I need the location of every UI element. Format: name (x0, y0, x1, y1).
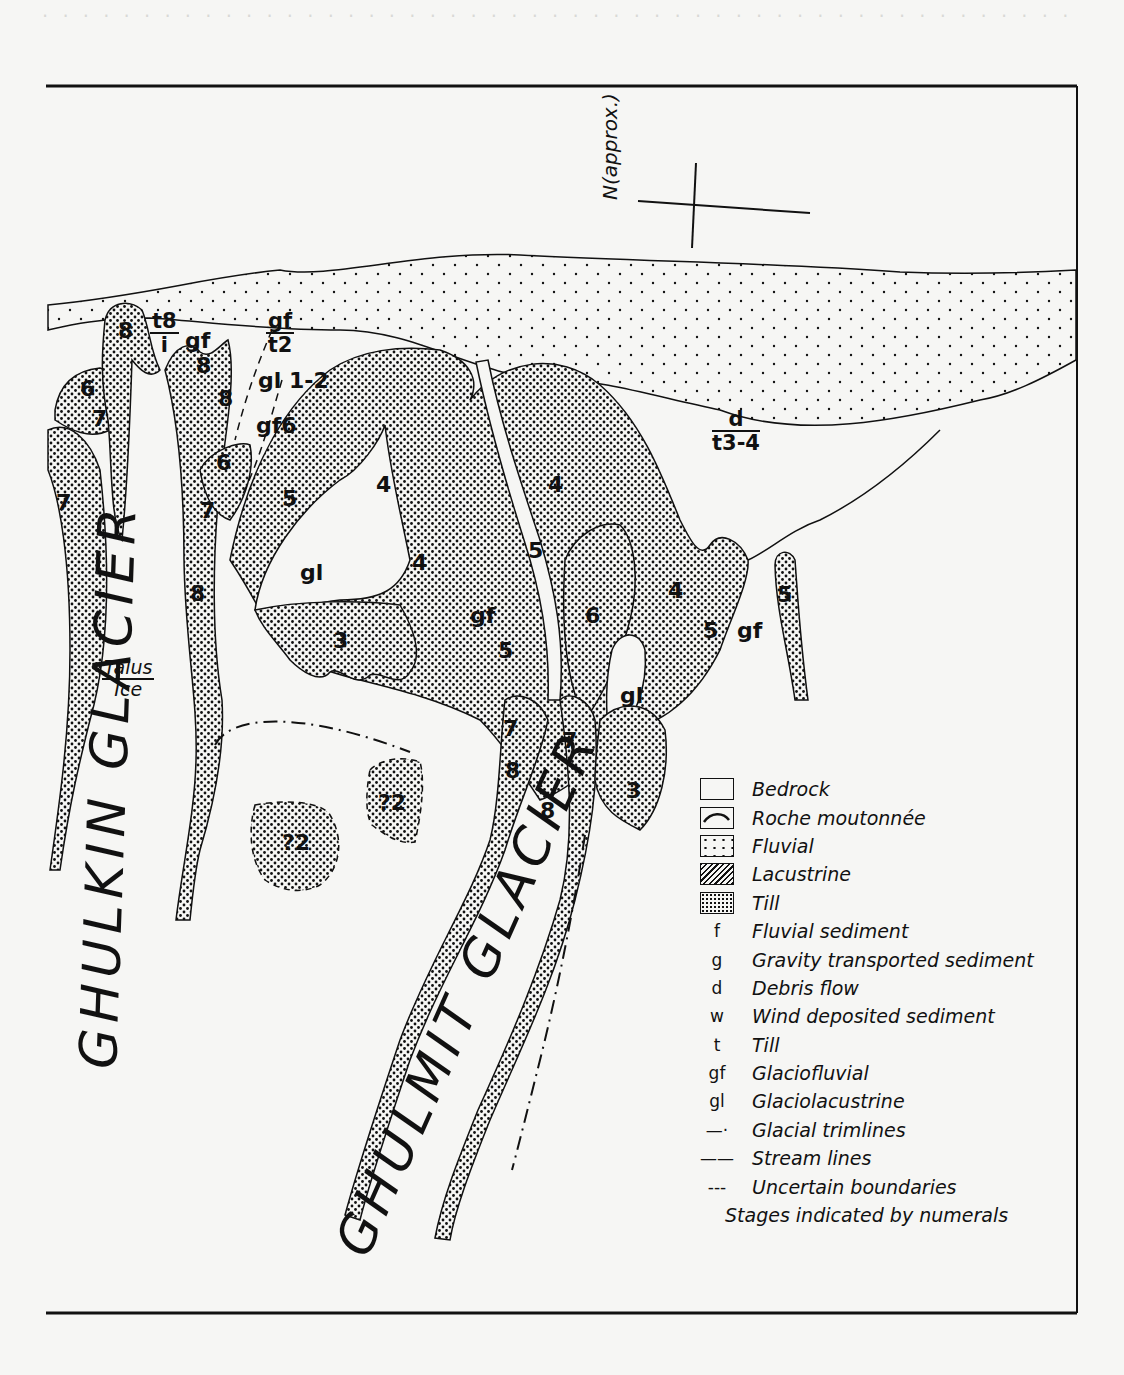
legend-item-stream-lines: —— Stream lines (700, 1144, 1080, 1172)
legend-item-uncertain-boundaries: --- Uncertain boundaries (700, 1172, 1080, 1200)
legend-item-bedrock: Bedrock (700, 775, 1080, 803)
map-label: 8 (218, 388, 233, 410)
legend-label: Glaciolacustrine (752, 1090, 905, 1112)
legend-code: f (700, 921, 734, 941)
map-label: 8 (196, 355, 211, 377)
fraction-top: d (712, 408, 760, 432)
talus-label: Talus (102, 658, 154, 680)
fraction-d-t3-4: d t3-4 (712, 408, 760, 454)
legend-code: w (700, 1006, 734, 1026)
map-label: 4 (376, 474, 391, 496)
map-label: gf (185, 330, 210, 352)
fraction-gf-t2: gf t2 (266, 310, 294, 356)
map-label: 5 (282, 488, 297, 510)
map-label: ?2 (378, 792, 406, 814)
legend-item-lacustrine: Lacustrine (700, 860, 1080, 888)
legend-label: Fluvial (752, 835, 814, 857)
fraction-bottom: i (161, 333, 168, 357)
legend-item-glaciofluvial: gf Glaciofluvial (700, 1059, 1080, 1087)
legend-code: —· (700, 1120, 734, 1140)
map-label: 5 (498, 640, 513, 662)
fraction-bottom: t3-4 (712, 431, 760, 455)
map-label: gf (470, 605, 495, 627)
map-label: 5 (703, 620, 718, 642)
map-label: 8 (505, 760, 520, 782)
map-label: 7 (200, 500, 215, 522)
legend-code: t (700, 1035, 734, 1055)
legend-item-fluvial: Fluvial (700, 832, 1080, 860)
legend-item-roche-moutonnee: Roche moutonnée (700, 803, 1080, 831)
map-label: 7 (56, 492, 71, 514)
map-label: 4 (548, 474, 563, 496)
legend-label: Fluvial sediment (752, 920, 908, 942)
map-label: 5 (528, 540, 543, 562)
legend-item-fluvial-sediment: f Fluvial sediment (700, 917, 1080, 945)
till-swatch (700, 892, 734, 914)
map-label: 7 (503, 718, 518, 740)
fraction-top: gf (266, 310, 294, 334)
map-label: gl (620, 685, 643, 707)
map-label: 6 (80, 378, 95, 400)
map-label: 4 (412, 552, 427, 574)
glacial-trimline-1 (215, 721, 410, 752)
map-label: 6 (216, 452, 231, 474)
map-label: 6 (585, 605, 600, 627)
legend-label: Glacial trimlines (752, 1119, 906, 1141)
north-label: N(approx.) (598, 93, 622, 200)
fraction-bottom: t2 (268, 333, 293, 357)
map-label: gl 1-2 (258, 370, 329, 392)
lacustrine-swatch (700, 863, 734, 885)
legend-note-row: Stages indicated by numerals (700, 1201, 1080, 1229)
legend-code: gl (700, 1091, 734, 1111)
ghulkin-right-moraine (165, 340, 231, 920)
map-label: 8 (540, 800, 555, 822)
legend-code: gf (700, 1063, 734, 1083)
legend-code: —— (700, 1148, 734, 1168)
legend-code: d (700, 978, 734, 998)
legend-item-till-code: t Till (700, 1031, 1080, 1059)
legend-label: Uncertain boundaries (752, 1176, 957, 1198)
map-label: 7 (92, 408, 107, 430)
legend-item-debris-flow: d Debris flow (700, 974, 1080, 1002)
legend-item-gravity-sediment: g Gravity transported sediment (700, 945, 1080, 973)
legend-label: Till (752, 1034, 779, 1056)
map-label: 5 (777, 584, 792, 606)
moraine-5-finger (775, 552, 808, 700)
legend-label: Debris flow (752, 977, 859, 999)
map-label: ?2 (282, 832, 310, 854)
map-label: gf (737, 620, 762, 642)
fluvial-swatch (700, 835, 734, 857)
legend-label: Lacustrine (752, 863, 851, 885)
legend-label: Gravity transported sediment (752, 949, 1034, 971)
map-label: 7 (562, 730, 577, 752)
legend-label: Wind deposited sediment (752, 1005, 995, 1027)
map-label: gf6 (256, 415, 297, 437)
map-label: 4 (668, 580, 683, 602)
legend-item-glacial-trimlines: —· Glacial trimlines (700, 1116, 1080, 1144)
legend-label: Bedrock (752, 778, 830, 800)
legend-note: Stages indicated by numerals (725, 1204, 1008, 1226)
map-label: 8 (190, 583, 205, 605)
fraction-top: t8 (150, 310, 179, 334)
ice-label: Ice (114, 678, 142, 700)
map-label: 3 (626, 780, 641, 802)
bedrock-swatch (700, 778, 734, 800)
map-label: 8 (118, 320, 133, 342)
moraine-3-right (595, 706, 666, 830)
legend-label: Till (752, 892, 779, 914)
fraction-t8-i: t8 i (150, 310, 179, 356)
arc-icon (701, 808, 732, 827)
north-arrow-icon (638, 163, 810, 248)
legend-item-till: Till (700, 889, 1080, 917)
legend-code: g (700, 950, 734, 970)
legend-code: --- (700, 1177, 734, 1197)
legend-label: Roche moutonnée (752, 807, 926, 829)
legend-item-wind-sediment: w Wind deposited sediment (700, 1002, 1080, 1030)
legend-item-glaciolacustrine: gl Glaciolacustrine (700, 1087, 1080, 1115)
bedrock-boundary (748, 430, 940, 560)
legend: Bedrock Roche moutonnée Fluvial Lacustri… (700, 775, 1080, 1229)
map-label: 3 (333, 630, 348, 652)
roche-moutonnee-swatch (700, 807, 734, 829)
legend-label: Glaciofluvial (752, 1062, 869, 1084)
legend-label: Stream lines (752, 1147, 871, 1169)
